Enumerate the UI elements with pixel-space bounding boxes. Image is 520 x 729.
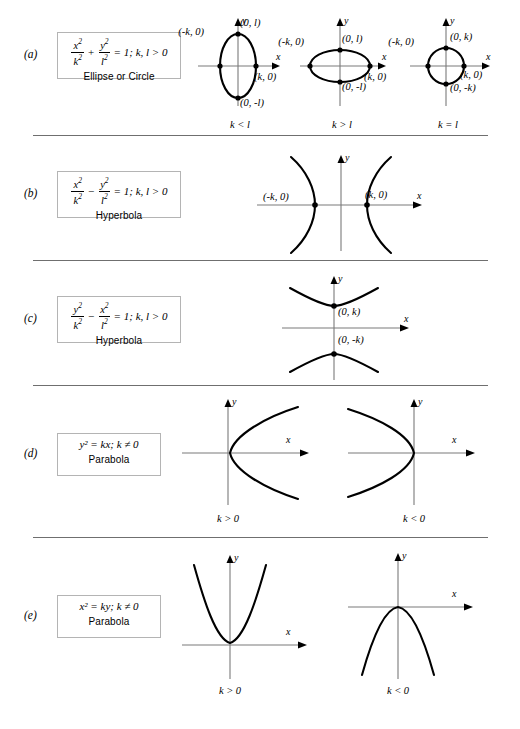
point-label-top: (0, k) (450, 31, 472, 42)
row-label-b: (b) (24, 187, 37, 199)
point-label-right: (k, 0) (460, 69, 482, 80)
figure-caption: k > 0 (198, 513, 258, 524)
figure-hyperbola-vertical: x y (0, k) (0, -k) (282, 266, 432, 382)
y-axis-label: y (231, 396, 237, 407)
equation-operator: − (87, 311, 95, 322)
fraction-y2-l2: y2 l2 (98, 38, 110, 67)
x-axis-label: x (381, 51, 387, 62)
point-label-top: (0, l) (240, 17, 260, 28)
row-parabola-horizontal: (d) y² = kx; k ≠ 0 Parabola x y k > 0 (0, 385, 520, 537)
figure-ellipse-wide: x y (-k, 0) (0, l) (k, 0) (0, -l) k > l (300, 14, 392, 106)
fraction-x2-k2: x2 k2 (71, 177, 83, 206)
figure-caption: k < 0 (368, 685, 428, 696)
figure-caption: k < 0 (384, 513, 444, 524)
figure-parabola-up: x y k > 0 (182, 549, 332, 681)
equation-text: x² = ky; k ≠ 0 (79, 601, 138, 612)
row-parabola-vertical: (e) x² = ky; k ≠ 0 Parabola x y k > 0 (0, 537, 520, 729)
row-label-c: (c) (24, 312, 37, 324)
equation-operator: + (87, 47, 95, 58)
point-label-upper-vertex: (0, k) (338, 306, 360, 317)
figure-hyperbola-horizontal: x y (-k, 0) (k, 0) (255, 143, 435, 255)
y-axis-label: y (344, 152, 350, 163)
conic-name-d: Parabola (66, 454, 152, 465)
equation-tail: = 1; k, l > 0 (114, 186, 168, 197)
y-axis-label: y (337, 273, 343, 284)
figure-caption: k < l (210, 119, 270, 130)
row-label-a: (a) (24, 48, 37, 60)
conic-name-e: Parabola (66, 616, 152, 627)
point-label-left: (-k, 0) (244, 36, 304, 47)
equation-box-b: x2 k2 − y2 l2 = 1; k, l > 0 Hyperbola (57, 171, 181, 218)
point-label-right: (k, 0) (254, 71, 276, 82)
x-axis-label: x (275, 51, 281, 62)
x-axis-label: x (403, 313, 409, 324)
equation-a: x2 k2 + y2 l2 = 1; k, l > 0 (66, 38, 172, 67)
conic-name-b: Hyperbola (66, 210, 172, 221)
point-label-right: (k, 0) (364, 71, 386, 82)
figure-parabola-left: x y k < 0 (348, 391, 498, 507)
fraction-numerator: y2 (71, 302, 83, 316)
row-label-d: (d) (24, 447, 37, 459)
fraction-denominator: l2 (99, 52, 110, 67)
equation-box-a: x2 k2 + y2 l2 = 1; k, l > 0 Ellipse or C… (57, 32, 181, 79)
fraction-x2-k2: x2 k2 (71, 38, 83, 67)
point-label-left: (-k, 0) (144, 26, 204, 37)
fraction-y2-k2: y2 k2 (71, 302, 83, 331)
y-axis-label: y (343, 15, 349, 26)
point-label-right-vertex: (k, 0) (365, 189, 387, 200)
equation-d: y² = kx; k ≠ 0 (66, 439, 152, 450)
row-hyperbola-vertical: (c) y2 k2 − x2 l2 = 1; k, l > 0 Hyperbol… (0, 260, 520, 385)
conic-sections-figure: (a) x2 k2 + y2 l2 = 1; k, l > 0 Ellipse … (0, 0, 520, 729)
x-axis-label: x (485, 51, 491, 62)
x-axis-label: x (285, 434, 291, 445)
fraction-denominator: k2 (71, 191, 83, 206)
x-axis-label: x (416, 190, 422, 201)
row-hyperbola-horizontal: (b) x2 k2 − y2 l2 = 1; k, l > 0 Hyperbol… (0, 135, 520, 260)
y-axis-label: y (401, 550, 407, 561)
point-label-bottom: (0, -l) (342, 81, 366, 92)
fraction-numerator: x2 (71, 177, 83, 191)
figure-circle: x y (-k, 0) (0, k) (k, 0) (0, -k) k = l (410, 14, 502, 106)
y-axis-label: y (233, 552, 239, 563)
row-label-e: (e) (24, 609, 37, 621)
y-axis-label: y (417, 396, 423, 407)
equation-c: y2 k2 − x2 l2 = 1; k, l > 0 (66, 302, 172, 331)
equation-b: x2 k2 − y2 l2 = 1; k, l > 0 (66, 177, 172, 206)
equation-box-c: y2 k2 − x2 l2 = 1; k, l > 0 Hyperbola (57, 296, 181, 343)
equation-text: y² = kx; k ≠ 0 (79, 439, 138, 450)
figure-caption: k = l (418, 119, 478, 130)
equation-tail: = 1; k, l > 0 (114, 47, 168, 58)
point-label-left-vertex: (-k, 0) (263, 191, 289, 202)
figure-ellipse-tall: x y (-k, 0) (0, l) (k, 0) (0, -l) k < l (196, 14, 288, 106)
equation-operator: − (87, 186, 95, 197)
fraction-numerator: x2 (71, 38, 83, 52)
fraction-numerator: y2 (98, 38, 110, 52)
fraction-numerator: y2 (98, 177, 110, 191)
x-axis-label: x (451, 588, 457, 599)
equation-tail: = 1; k, l > 0 (114, 311, 168, 322)
x-axis-label: x (451, 434, 457, 445)
figure-caption: k > l (312, 119, 372, 130)
fraction-denominator: k2 (71, 316, 83, 331)
row-ellipse: (a) x2 k2 + y2 l2 = 1; k, l > 0 Ellipse … (0, 0, 520, 135)
y-axis-label: y (449, 15, 455, 26)
conic-name-a: Ellipse or Circle (66, 71, 172, 82)
fraction-denominator: l2 (99, 316, 110, 331)
figure-parabola-right: x y k > 0 (182, 391, 332, 507)
point-label-left: (-k, 0) (354, 36, 414, 47)
fraction-x2-l2: x2 l2 (98, 302, 110, 331)
fraction-denominator: l2 (99, 191, 110, 206)
equation-e: x² = ky; k ≠ 0 (66, 601, 152, 612)
x-axis-label: x (285, 626, 291, 637)
figure-parabola-down: x y k < 0 (348, 549, 498, 681)
conic-name-c: Hyperbola (66, 335, 172, 346)
point-label-bottom: (0, -k) (450, 82, 476, 93)
fraction-denominator: k2 (71, 52, 83, 67)
fraction-y2-l2: y2 l2 (98, 177, 110, 206)
fraction-numerator: x2 (98, 302, 110, 316)
point-label-bottom: (0, -l) (240, 97, 264, 108)
point-label-lower-vertex: (0, -k) (338, 334, 364, 345)
equation-box-e: x² = ky; k ≠ 0 Parabola (57, 595, 161, 638)
equation-box-d: y² = kx; k ≠ 0 Parabola (57, 433, 161, 476)
figure-caption: k > 0 (200, 685, 260, 696)
